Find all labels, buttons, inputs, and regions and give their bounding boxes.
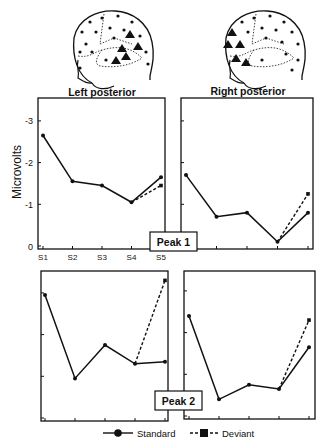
standard-marker [100, 184, 104, 188]
y-tick-label: -1 [25, 200, 33, 210]
standard-marker [73, 376, 77, 380]
deviant-marker [306, 192, 310, 196]
square-marker-icon [200, 429, 208, 437]
panel-left-peak-2 [41, 271, 168, 421]
standard-marker [103, 343, 107, 347]
standard-marker [43, 293, 47, 297]
panel-right-peak-2 [184, 271, 315, 419]
standard-marker [41, 133, 45, 137]
y-tick-label: -3 [25, 116, 33, 126]
deviant-marker [159, 184, 163, 188]
standard-marker [217, 397, 221, 401]
circle-marker-icon [114, 429, 122, 437]
standard-marker [277, 387, 281, 391]
head-diagram-right [223, 11, 305, 89]
deviant-marker [307, 318, 311, 322]
erp-figure: Left posterior Right posterior Microvolt… [0, 0, 327, 447]
head-diagram-left [74, 11, 154, 89]
standard-marker [71, 179, 75, 183]
peak-1-label-box: Peak 1 [150, 232, 197, 251]
standard-line [45, 295, 165, 378]
x-tick-label: S5 [156, 253, 166, 262]
panel-left-peak-1: 0-1-2-3S1S2S3S4S5 [25, 98, 166, 262]
standard-marker [306, 211, 310, 215]
x-tick-label: S4 [127, 253, 137, 262]
deviant-line [135, 280, 165, 363]
legend-deviant: Deviant [190, 428, 255, 439]
standard-marker [245, 211, 249, 215]
standard-marker [215, 215, 219, 219]
y-axis-label: Microvolts [10, 145, 24, 199]
standard-marker [133, 362, 137, 366]
peak-1-label: Peak 1 [157, 236, 190, 248]
standard-marker [307, 345, 311, 349]
standard-line [186, 175, 308, 242]
region-label-left: Left posterior [68, 86, 136, 98]
peak-2-label: Peak 2 [162, 395, 195, 407]
standard-marker [276, 240, 280, 244]
x-tick-label: S2 [68, 253, 78, 262]
standard-marker [187, 314, 191, 318]
legend: Standard Deviant [103, 428, 255, 439]
region-label-right: Right posterior [210, 85, 285, 97]
standard-line [43, 135, 161, 202]
legend-deviant-label: Deviant [222, 428, 255, 439]
y-tick-label: 0 [28, 242, 33, 252]
peak-2-label-box: Peak 2 [155, 391, 202, 410]
x-tick-label: S3 [97, 253, 107, 262]
standard-marker [247, 383, 251, 387]
legend-standard-label: Standard [137, 428, 176, 439]
standard-marker [159, 175, 163, 179]
standard-marker [184, 173, 188, 177]
standard-line [189, 316, 309, 399]
deviant-line [132, 186, 162, 203]
standard-marker [130, 200, 134, 204]
panel-right-peak-1 [181, 98, 313, 249]
y-tick-label: -2 [25, 158, 33, 168]
deviant-marker [163, 279, 167, 283]
legend-standard: Standard [103, 428, 176, 439]
x-tick-label: S1 [38, 253, 48, 262]
standard-marker [163, 360, 167, 364]
